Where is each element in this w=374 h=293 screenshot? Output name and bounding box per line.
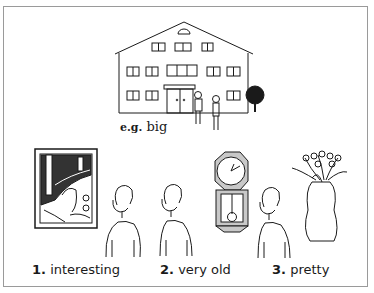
item-2-word: very old — [178, 262, 231, 277]
item-2-label: 2. very old — [160, 262, 231, 277]
item-3-word: pretty — [290, 262, 329, 277]
item-3-number: 3. — [272, 262, 286, 277]
house-icon — [115, 22, 253, 113]
people-icon — [195, 92, 220, 131]
pendulum-clock-icon — [215, 152, 248, 232]
illustrations — [0, 0, 374, 293]
flowers-vase-icon — [292, 151, 347, 241]
framed-artwork-icon — [35, 149, 97, 228]
example-label: e.g. big — [120, 119, 167, 134]
item-1-number: 1. — [32, 262, 46, 277]
boy-looking-up-icon — [160, 184, 192, 256]
item-1-label: 1. interesting — [32, 262, 120, 277]
item-1-word: interesting — [50, 262, 120, 277]
example-word: big — [147, 119, 168, 134]
item-3-label: 3. pretty — [272, 262, 329, 277]
boy-looking-up-icon — [106, 185, 140, 257]
tree-icon — [246, 86, 264, 112]
example-prefix: e.g. — [120, 121, 142, 134]
item-2-number: 2. — [160, 262, 174, 277]
boy-looking-up-icon — [258, 187, 290, 258]
